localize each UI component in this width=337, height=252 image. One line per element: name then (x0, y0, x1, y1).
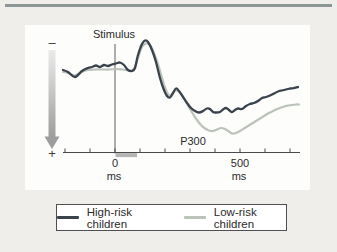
erp-figure: – + Stimulus P300 0 ms 500 ms High-risk … (0, 0, 337, 252)
legend: High-risk children Low-risk children (56, 204, 287, 231)
positive-polarity-label: + (48, 148, 56, 160)
negative-polarity-label: – (48, 37, 55, 49)
legend-label-high-risk: High-risk children (87, 206, 161, 230)
x-tick-unit-0: ms (107, 170, 122, 182)
stimulus-annotation: Stimulus (93, 28, 135, 40)
polarity-arrow-icon (45, 50, 60, 149)
x-tick-unit-500: ms (232, 170, 247, 182)
legend-item-low-risk: Low-risk children (184, 206, 286, 230)
x-tick-label-0: 0 (112, 157, 118, 169)
legend-line-low-risk-icon (184, 216, 206, 219)
legend-line-high-risk-icon (57, 216, 79, 219)
legend-item-high-risk: High-risk children (57, 206, 161, 230)
x-tick-label-500: 500 (231, 157, 249, 169)
p300-annotation: P300 (180, 135, 206, 147)
legend-label-low-risk: Low-risk children (214, 206, 286, 230)
